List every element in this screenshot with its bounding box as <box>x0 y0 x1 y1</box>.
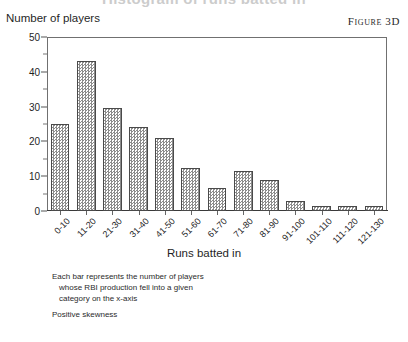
bar <box>129 127 148 211</box>
bar <box>77 61 96 211</box>
bar <box>260 180 279 211</box>
y-tick-label: 30 <box>29 101 40 112</box>
bar <box>51 124 70 211</box>
x-tick-label: 31-40 <box>127 216 150 239</box>
x-tick-label: 71-80 <box>232 216 255 239</box>
bar <box>286 201 305 211</box>
x-tick-label: 11-20 <box>75 216 98 239</box>
skewness-note: Positive skewness <box>52 310 117 319</box>
x-tick-label: 21-30 <box>101 216 124 239</box>
chart-annotation: Each bar represents the number of player… <box>52 271 204 304</box>
x-tick-label: 51-60 <box>180 216 203 239</box>
x-tick-label: 111-120 <box>330 216 359 245</box>
figure-label: Figure 3D <box>348 15 400 27</box>
x-tick-label: 0-10 <box>52 216 72 236</box>
bar <box>234 171 253 211</box>
annotation-line-2: whose RBI production fell into a given <box>52 282 204 293</box>
bar-series <box>47 37 387 211</box>
x-tick-label: 101-110 <box>304 216 334 246</box>
bar <box>103 108 122 211</box>
y-tick-label: 10 <box>29 171 40 182</box>
annotation-line-1: Each bar represents the number of player… <box>52 271 204 282</box>
x-tick-label: 61-70 <box>206 216 229 239</box>
annotation-line-3: category on the x-axis <box>52 293 204 304</box>
x-tick-label: 121-130 <box>356 216 386 246</box>
y-tick-label: 40 <box>29 66 40 77</box>
cropped-figure-title: Histogram of runs batted in <box>0 0 408 7</box>
bar <box>155 138 174 211</box>
y-tick-label: 50 <box>29 32 40 43</box>
x-tick-label: 81-90 <box>258 216 281 239</box>
y-tick-label: 20 <box>29 136 40 147</box>
x-tick-label: 41-50 <box>153 216 176 239</box>
bar <box>208 188 227 211</box>
bar <box>181 168 200 212</box>
x-axis-title: Runs batted in <box>0 247 408 259</box>
y-axis-title: Number of players <box>6 12 100 24</box>
y-axis: 01020304050 <box>0 37 47 211</box>
cropped-figure-title-text: Histogram of runs batted in <box>0 0 408 6</box>
